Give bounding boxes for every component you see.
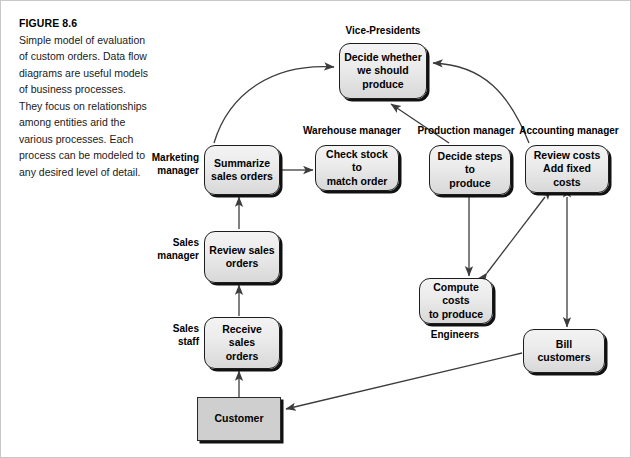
edge-computecosts-reviewcosts <box>487 197 545 273</box>
process-label: Review costs Add fixed costs <box>530 149 604 190</box>
edge-billcustomers-to-customer <box>286 353 522 409</box>
diagram-edges <box>1 1 631 458</box>
role-label-engineers: Engineers <box>409 329 501 342</box>
entity-label: Customer <box>214 412 263 426</box>
process-label: Check stock to match order <box>320 148 394 189</box>
process-review-sales-orders[interactable]: Review sales orders <box>204 231 280 283</box>
role-label-marketing-manager: Marketing manager <box>145 152 199 177</box>
role-label-warehouse-manager: Warehouse manager <box>291 125 413 138</box>
process-compute-costs-to-produce[interactable]: Compute costs to produce <box>419 278 493 324</box>
process-summarize-sales-orders[interactable]: Summarize sales orders <box>204 145 280 195</box>
process-label: Receive sales orders <box>209 323 275 364</box>
role-label-sales-manager: Sales manager <box>145 237 199 262</box>
process-decide-whether-we-should-produce[interactable]: Decide whether we should produce <box>339 43 427 99</box>
process-receive-sales-orders[interactable]: Receive sales orders <box>204 317 280 369</box>
process-check-stock-to-match-order[interactable]: Check stock to match order <box>315 145 399 191</box>
figure-container: FIGURE 8.6 Simple model of evaluation of… <box>0 0 631 458</box>
process-review-costs-add-fixed-costs[interactable]: Review costs Add fixed costs <box>525 145 609 193</box>
process-label: Review sales orders <box>209 244 274 271</box>
role-label-sales-staff: Sales staff <box>145 323 199 348</box>
process-label: Bill customers <box>528 338 600 365</box>
diagram-canvas: Vice-Presidents Marketing manager Wareho… <box>1 1 631 458</box>
process-label: Summarize sales orders <box>211 157 273 184</box>
role-label-vice-presidents: Vice-Presidents <box>331 25 435 38</box>
process-decide-steps-to-produce[interactable]: Decide steps to produce <box>429 145 511 195</box>
process-label: Decide whether we should produce <box>344 51 422 92</box>
role-label-production-manager: Production manager <box>407 125 525 138</box>
process-bill-customers[interactable]: Bill customers <box>523 329 605 373</box>
process-label: Decide steps to produce <box>434 150 506 191</box>
role-label-accounting-manager: Accounting manager <box>511 125 627 138</box>
process-label: Compute costs to produce <box>424 281 488 322</box>
entity-customer[interactable]: Customer <box>197 397 281 441</box>
